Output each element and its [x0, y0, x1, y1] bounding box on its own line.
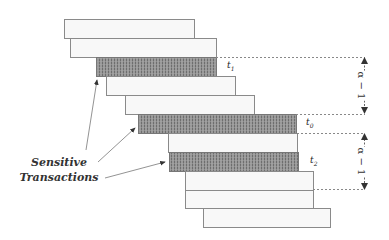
transaction-bar: [71, 39, 217, 58]
arrowhead-down-icon: [361, 183, 368, 190]
label-t2-sub: 2: [314, 160, 318, 167]
label-t2: t2: [310, 156, 317, 167]
label-t0-sub: 0: [310, 122, 314, 129]
transaction-bar: [169, 134, 298, 153]
transaction-bar: [65, 20, 195, 39]
interval-label-upper: α − 1: [356, 71, 367, 101]
transaction-bars: [65, 20, 331, 228]
transaction-bar: [186, 191, 314, 209]
arrowhead-up-icon: [361, 57, 368, 64]
sensitive-transaction-bar-t2: [170, 153, 299, 172]
sensitive-transactions-caption: Sensitive Transactions: [14, 155, 104, 185]
transaction-bar: [126, 96, 255, 115]
caption-line-2: Transactions: [14, 170, 104, 185]
caption-line-1: Sensitive: [14, 155, 104, 170]
label-t0: t0: [306, 118, 313, 129]
label-t1: t1: [227, 61, 234, 72]
transaction-bar: [107, 77, 236, 96]
arrowhead-down-icon: [361, 107, 368, 114]
transaction-bar: [186, 172, 314, 191]
transaction-diagram: [0, 0, 389, 240]
sensitive-transaction-bar-t1: [97, 58, 217, 77]
interval-label-lower: α − 1: [356, 147, 367, 177]
sensitive-transaction-bar-t0: [139, 115, 297, 134]
arrowhead-up-icon: [361, 133, 368, 140]
transaction-bar: [204, 209, 331, 228]
label-t1-sub: 1: [231, 65, 235, 72]
